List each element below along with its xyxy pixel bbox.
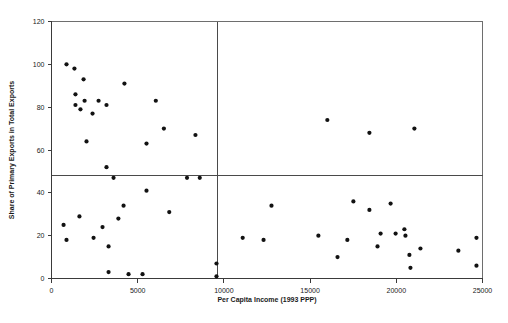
y-axis-ticks: 020406080100120	[33, 18, 52, 282]
data-point	[456, 249, 460, 253]
y-axis-title: Share of Primary Exports in Total Export…	[8, 81, 16, 219]
data-point	[345, 238, 349, 242]
data-point	[316, 234, 320, 238]
data-point	[144, 141, 148, 145]
data-point	[367, 208, 371, 212]
plot-border	[52, 22, 483, 279]
data-point	[104, 165, 108, 169]
x-tick-label: 10000	[214, 287, 234, 294]
data-point	[367, 131, 371, 135]
data-point	[126, 272, 130, 276]
data-point	[412, 126, 416, 130]
y-tick-label: 100	[33, 61, 45, 68]
data-point	[474, 236, 478, 240]
data-point	[214, 274, 218, 278]
data-point	[144, 189, 148, 193]
data-point	[162, 126, 166, 130]
data-point	[140, 272, 144, 276]
data-point	[104, 103, 108, 107]
y-tick-label: 20	[37, 232, 45, 239]
data-point	[83, 99, 87, 103]
data-point	[106, 244, 110, 248]
y-tick-label: 0	[41, 275, 45, 282]
axes	[52, 22, 483, 279]
data-point	[474, 264, 478, 268]
data-point	[116, 216, 120, 220]
data-point	[408, 266, 412, 270]
data-point	[214, 261, 218, 265]
x-tick-label: 20000	[387, 287, 407, 294]
x-tick-label: 0	[50, 287, 54, 294]
data-point	[111, 176, 115, 180]
data-point	[106, 270, 110, 274]
data-point	[375, 244, 379, 248]
data-point	[198, 176, 202, 180]
data-point	[121, 204, 125, 208]
x-axis-ticks: 0500010000150002000025000	[50, 279, 493, 294]
data-point	[72, 67, 76, 71]
y-tick-label: 80	[37, 104, 45, 111]
x-axis-title: Per Capita Income (1993 PPP)	[217, 296, 316, 304]
y-tick-label: 120	[33, 18, 45, 25]
data-point	[241, 236, 245, 240]
x-tick-label: 25000	[473, 287, 493, 294]
data-point	[167, 210, 171, 214]
scatter-plot-chart: 0500010000150002000025000020406080100120…	[0, 0, 508, 323]
data-point	[418, 246, 422, 250]
data-point	[335, 255, 339, 259]
y-tick-label: 60	[37, 147, 45, 154]
data-point	[325, 118, 329, 122]
x-tick-label: 15000	[300, 287, 320, 294]
data-point	[81, 77, 85, 81]
chart-canvas: 0500010000150002000025000020406080100120…	[0, 0, 508, 323]
data-point	[379, 231, 383, 235]
data-point	[403, 234, 407, 238]
data-point	[90, 111, 94, 115]
data-point	[91, 236, 95, 240]
data-point	[407, 253, 411, 257]
data-point	[402, 227, 406, 231]
data-point	[351, 199, 355, 203]
data-point	[394, 231, 398, 235]
data-point	[96, 99, 100, 103]
data-point	[73, 103, 77, 107]
data-points	[61, 62, 478, 278]
data-point	[77, 214, 81, 218]
data-point	[73, 92, 77, 96]
data-point	[261, 238, 265, 242]
data-point	[122, 82, 126, 86]
data-point	[100, 225, 104, 229]
data-point	[64, 238, 68, 242]
data-point	[269, 204, 273, 208]
reference-lines	[52, 22, 483, 279]
data-point	[154, 99, 158, 103]
data-point	[61, 223, 65, 227]
data-point	[193, 133, 197, 137]
plot-frame	[52, 22, 483, 279]
data-point	[185, 176, 189, 180]
data-point	[64, 62, 68, 66]
data-point	[84, 139, 88, 143]
data-point	[78, 107, 82, 111]
data-point	[389, 201, 393, 205]
y-tick-label: 40	[37, 189, 45, 196]
x-tick-label: 5000	[130, 287, 146, 294]
